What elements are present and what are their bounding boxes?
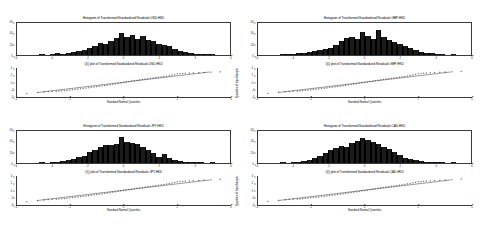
qqplot-data-point [72, 197, 73, 198]
histogram-bars [17, 131, 230, 163]
qqplot-area [257, 68, 472, 97]
qqplot-data-point [77, 88, 78, 89]
histogram-bar [210, 162, 215, 163]
axis-tick-label: -6 [15, 164, 17, 168]
qqplot-data-point [96, 86, 97, 87]
axis-tick-label: 0 [123, 56, 124, 60]
qqplot-data-point [430, 72, 431, 73]
histogram-jpy-hkd: Histogram of Transformed Standardized Re… [16, 130, 231, 164]
axis-tick-label: 2 [400, 164, 401, 168]
histogram-bar [440, 162, 445, 163]
qqplot-data-point [423, 73, 424, 74]
qqplot-data-point [404, 76, 405, 77]
axis-tick-label: 0 [364, 97, 365, 101]
qqplot-usd-hkd: QQ plot of Transformed Standardized Resi… [16, 68, 231, 97]
qqplot-data-point [396, 77, 397, 78]
axis-tick-label: 0 [252, 81, 255, 84]
axis-tick-label: 0 [252, 55, 254, 58]
qqplot-data-point [310, 197, 311, 198]
qqplot-data-point [182, 73, 183, 74]
axis-tick-label: 20 [10, 43, 14, 46]
axis-tick-label: -6 [15, 56, 17, 60]
qqplot-title: QQ plot of Transformed Standardized Resi… [257, 62, 472, 67]
qqplot-data-point [434, 72, 435, 73]
qqplot-data-point [193, 72, 194, 73]
qqplot-data-point [307, 198, 308, 199]
axis-tick-label: 6 [230, 164, 231, 168]
qqplot-data-point [316, 197, 317, 198]
qqplot-jpy-hkd: QQ plot of Transformed Standardized Resi… [16, 176, 231, 205]
qqplot-cad-hkd: QQ plot of Transformed Standardized Resi… [257, 176, 472, 205]
axis-tick-label: 20 [251, 43, 255, 46]
axis-tick-label: 40 [10, 140, 14, 143]
qqplot-data-point [297, 199, 298, 200]
qqplot-x-axis-label: Standard Normal Quantiles [16, 208, 231, 212]
qqplot-data-point [56, 199, 57, 200]
qqplot-data-point [410, 183, 411, 184]
qqplot-data-point [166, 76, 167, 77]
qqplot-data-point [418, 73, 419, 74]
qqplot-data-point [107, 192, 108, 193]
qqplot-y-axis-label: Quantiles of Input Sample [236, 68, 239, 98]
qqplot-data-point [461, 71, 462, 72]
axis-tick-label: 0 [11, 55, 13, 58]
qqplot-data-point [426, 72, 427, 73]
qqplot-data-point [415, 182, 416, 183]
qqplot-data-point [109, 84, 110, 85]
axis-tick-label: 20 [10, 151, 14, 154]
qqplot-data-point [163, 184, 164, 185]
qqplot-data-point [313, 89, 314, 90]
qqplot-data-point [404, 184, 405, 185]
histogram-axes [257, 22, 472, 56]
qqplot-data-point [350, 192, 351, 193]
qqplot-data-point [93, 194, 94, 195]
qqplot-data-point [393, 185, 394, 186]
qqplot-data-point [101, 193, 102, 194]
qqplot-data-point [69, 197, 70, 198]
qqplot-data-point [66, 198, 67, 199]
axis-tick-label: -6 [256, 56, 258, 60]
qqplot-gbp-hkd: QQ plot of Transformed Standardized Resi… [257, 68, 472, 97]
qqplot-data-point [372, 189, 373, 190]
qqplot-data-point [72, 89, 73, 90]
qqplot-data-point [26, 93, 27, 94]
axis-tick-label: 0 [11, 189, 14, 192]
axis-tick-label: -4 [15, 205, 17, 209]
qqplot-data-point [83, 196, 84, 197]
qqplot-data-point [80, 196, 81, 197]
qqplot-data-point [369, 189, 370, 190]
axis-tick-label: 0 [123, 164, 124, 168]
axis-tick-label: -4 [11, 96, 14, 99]
axis-tick-label: 60 [251, 21, 255, 24]
histogram-usd-hkd: Histogram of Transformed Standardized Re… [16, 22, 231, 56]
qqplot-data-point [75, 89, 76, 90]
qqplot-data-point [396, 185, 397, 186]
histogram-bar [451, 162, 456, 163]
histogram-bar [451, 54, 456, 55]
qqplot-data-point [316, 89, 317, 90]
qqplot-data-point [334, 86, 335, 87]
axis-tick-label: -2 [11, 88, 14, 91]
qqplot-data-point [307, 90, 308, 91]
histogram-title: Histogram of Transformed Standardized Re… [16, 124, 231, 129]
axis-tick-label: 0 [252, 163, 254, 166]
histogram-bar [440, 54, 445, 55]
axis-tick-label: 40 [10, 32, 14, 35]
axis-tick-label: -2 [87, 164, 89, 168]
axis-tick-label: 60 [10, 129, 14, 132]
qqplot-data-point [85, 87, 86, 88]
qqplot-data-point [329, 195, 330, 196]
axis-tick-label: 20 [251, 151, 255, 154]
axis-tick-label: 0 [11, 81, 14, 84]
qqplot-data-point [278, 200, 279, 201]
qqplot-data-point [88, 195, 89, 196]
axis-tick-label: 2 [252, 74, 255, 77]
axis-tick-label: -4 [51, 56, 53, 60]
axis-tick-label: 2 [400, 56, 401, 60]
qqplot-data-point [418, 181, 419, 182]
qqplot-data-point [299, 198, 300, 199]
axis-tick-label: -2 [252, 196, 255, 199]
axis-tick-label: -2 [252, 88, 255, 91]
qqplot-data-point [58, 90, 59, 91]
qqplot-title: QQ plot of Transformed Standardized Resi… [16, 62, 231, 67]
